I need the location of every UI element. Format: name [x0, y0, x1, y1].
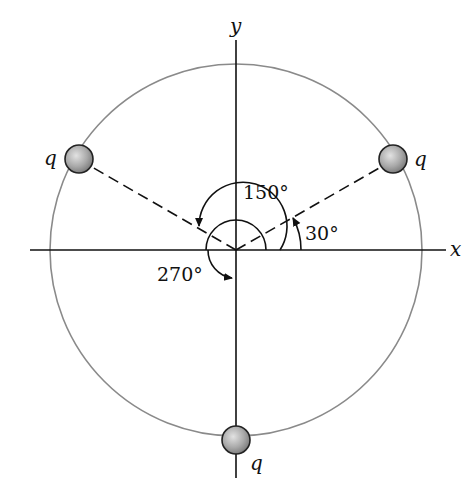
arc-30 [293, 218, 301, 250]
charge-270 [222, 426, 250, 454]
charge-150 [65, 145, 93, 173]
charge-label-270: q [250, 451, 263, 475]
charge-30 [379, 145, 407, 173]
y-axis-label: y [229, 14, 242, 38]
charge-diagram: y x q q q 150° 30° 270° [0, 0, 476, 496]
angle-label-150: 150° [243, 181, 289, 203]
x-axis-label: x [450, 237, 461, 261]
angle-label-270: 270° [157, 263, 203, 285]
charge-label-30: q [414, 147, 427, 171]
arc-270 [208, 250, 232, 278]
dashed-line-150 [92, 167, 236, 250]
angle-label-30: 30° [305, 222, 339, 244]
charge-label-150: q [44, 146, 57, 170]
